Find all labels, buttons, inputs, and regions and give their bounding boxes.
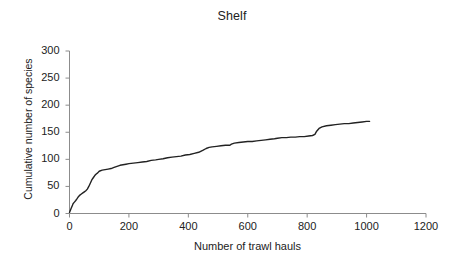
data-series-line [70,121,370,212]
x-axis-tick-label: 200 [107,221,151,232]
y-axis-tick-label: 0 [30,208,60,219]
x-axis-tick-label: 600 [226,221,270,232]
x-axis-tick-label: 1000 [345,221,389,232]
y-axis-tick-label: 250 [30,72,60,83]
x-axis-tick-label: 0 [48,221,92,232]
y-axis-tick-label: 300 [30,45,60,56]
y-axis-tick-label: 200 [30,99,60,110]
y-axis-tick-label: 100 [30,153,60,164]
axis-lines [70,51,427,214]
y-axis-ticks [66,51,70,214]
x-axis-tick-label: 800 [285,221,329,232]
x-axis-tick-label: 1200 [404,221,448,232]
chart-figure: Shelf Cumulative number of species Numbe… [0,0,464,272]
y-axis-tick-label: 50 [30,180,60,191]
y-axis-tick-label: 150 [30,126,60,137]
x-axis-ticks [70,214,427,218]
x-axis-tick-label: 400 [166,221,210,232]
